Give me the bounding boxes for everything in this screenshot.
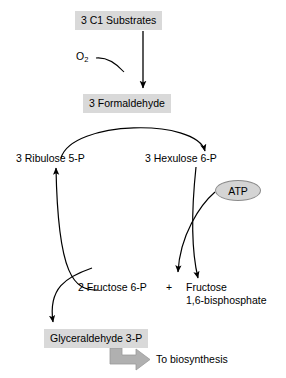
node-fructose-6p: 2 Fructose 6-P bbox=[78, 281, 147, 294]
atp-label: ATP bbox=[228, 185, 248, 197]
node-glyceraldehyde-3p: Glyceraldehyde 3-P bbox=[44, 329, 148, 348]
node-oxygen: O2 bbox=[76, 50, 88, 66]
node-formaldehyde: 3 Formaldehyde bbox=[83, 94, 171, 113]
oxygen-label: O bbox=[76, 50, 84, 62]
oxygen-subscript: 2 bbox=[84, 55, 88, 64]
curve-to-glyceraldehyde3p bbox=[52, 268, 92, 322]
node-fructose-1-6-bisphosphate: Fructose 1,6-bisphosphate bbox=[186, 281, 267, 307]
label-to-biosynthesis: To biosynthesis bbox=[156, 353, 228, 366]
block-arrow-to-biosynthesis bbox=[110, 348, 150, 370]
curve-oxygen-input bbox=[96, 58, 124, 72]
pathway-diagram-canvas: 3 C1 Substrates O2 3 Formaldehyde 3 Ribu… bbox=[0, 0, 286, 378]
node-hexulose-6p: 3 Hexulose 6-P bbox=[145, 152, 217, 165]
curve-atp-to-fructose-bisphosphate bbox=[178, 192, 215, 272]
node-c1-substrates: 3 C1 Substrates bbox=[75, 11, 162, 30]
node-ribulose-5p: 3 Ribulose 5-P bbox=[16, 152, 85, 165]
node-atp: ATP bbox=[215, 180, 261, 201]
curve-hexulose-to-fructose6p bbox=[193, 167, 199, 278]
curve-fructose6p-to-ribulose5p bbox=[56, 168, 98, 290]
plus-sign: + bbox=[166, 281, 172, 294]
fructose-bisphosphate-line2: 1,6-bisphosphate bbox=[186, 294, 267, 307]
fructose-bisphosphate-line1: Fructose bbox=[186, 281, 267, 294]
